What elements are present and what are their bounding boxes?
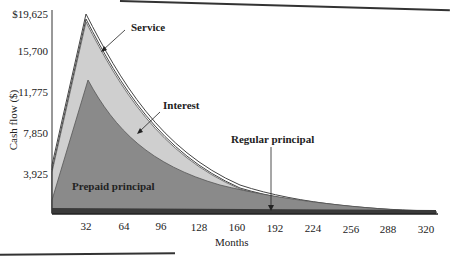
y-tick: $19,625 [0, 8, 48, 20]
y-axis-title: Cash flow ($) [7, 85, 19, 155]
x-tick: 288 [373, 223, 403, 235]
x-tick: 32 [71, 220, 101, 232]
y-tick: 3,925 [0, 168, 48, 180]
x-tick: 256 [336, 223, 366, 235]
x-tick: 320 [411, 223, 441, 235]
prepaid-principal-label: Prepaid principal [72, 180, 155, 192]
x-tick: 64 [109, 220, 139, 232]
regular-principal-label: Regular principal [231, 133, 314, 145]
x-tick: 96 [146, 220, 176, 232]
x-tick: 160 [222, 221, 252, 233]
x-tick: 224 [298, 222, 328, 234]
service-label: Service [131, 21, 165, 33]
y-tick: 15,700 [0, 45, 48, 57]
x-tick: 192 [260, 222, 290, 234]
x-axis-title: Months [215, 236, 249, 248]
x-tick: 128 [184, 221, 214, 233]
interest-label: Interest [163, 99, 199, 111]
